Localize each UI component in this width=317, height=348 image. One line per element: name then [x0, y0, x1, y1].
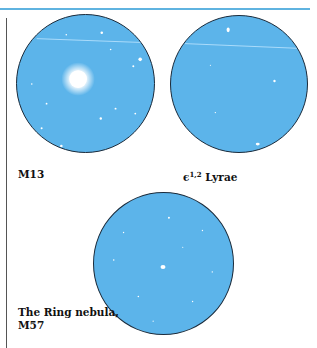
- m57-label-line2: M57: [18, 319, 119, 332]
- epsilon-lyrae-starfield-image: [171, 16, 307, 152]
- m13-label: M13: [18, 168, 44, 181]
- m13-telescope-field: [16, 14, 155, 153]
- epsilon-lyrae-label-text: Lyrae: [202, 171, 238, 183]
- m57-label: The Ring nebula, M57: [18, 306, 119, 332]
- epsilon-lyrae-label: ϵ1,2 Lyrae: [183, 168, 237, 184]
- left-margin-rule: [6, 18, 7, 348]
- m13-starfield-image: [17, 15, 154, 152]
- epsilon-superscript: 1,2: [189, 170, 201, 179]
- m13-label-text: M13: [18, 168, 44, 180]
- epsilon-lyrae-telescope-field: [170, 15, 308, 153]
- m57-label-line1: The Ring nebula,: [18, 306, 119, 319]
- top-rule: [0, 8, 310, 10]
